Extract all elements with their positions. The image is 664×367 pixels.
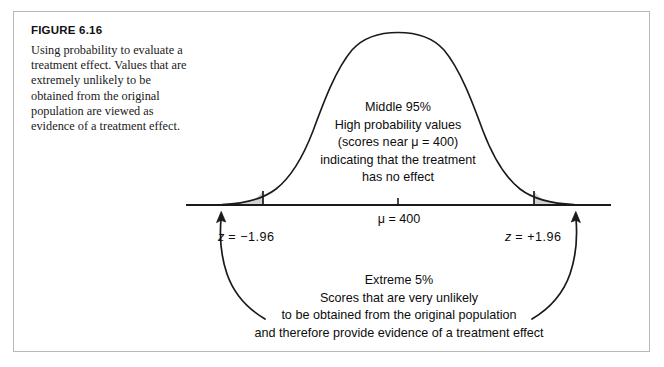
figure-number-label: FIGURE 6.16 [31, 24, 196, 36]
extreme-annotation-line-1: Extreme 5% [255, 272, 544, 290]
figure-caption-text: Using probability to evaluate a treatmen… [31, 43, 196, 134]
extreme-region-annotation: Extreme 5% Scores that are very unlikely… [255, 272, 544, 342]
middle-annotation-line-4: indicating that the treatment [320, 152, 475, 170]
figure-caption-block: FIGURE 6.16 Using probability to evaluat… [31, 24, 196, 134]
extreme-annotation-line-4: and therefore provide evidence of a trea… [255, 325, 544, 343]
z-score-label-right: z = +1.96 [505, 230, 562, 244]
extreme-annotation-line-2: Scores that are very unlikely [255, 290, 544, 308]
middle-annotation-line-1: Middle 95% [320, 99, 475, 117]
middle-annotation-line-5: has no effect [320, 169, 475, 187]
middle-annotation-line-3: (scores near μ = 400) [320, 134, 475, 152]
extreme-annotation-line-3: to be obtained from the original populat… [255, 307, 544, 325]
middle-annotation-line-2: High probability values [320, 117, 475, 135]
mean-axis-label: μ = 400 [378, 212, 421, 226]
figure-page: FIGURE 6.16 Using probability to evaluat… [0, 0, 664, 367]
z-score-label-left: z = −1.96 [218, 230, 275, 244]
middle-region-annotation: Middle 95% High probability values (scor… [320, 99, 475, 187]
